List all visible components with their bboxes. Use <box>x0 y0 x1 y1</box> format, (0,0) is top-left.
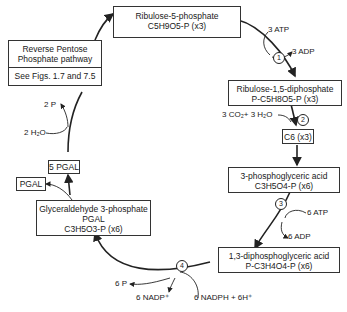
label-2-h2o: 2 H₂O <box>24 128 46 138</box>
step-1-marker: 1 <box>273 52 285 64</box>
label-6-atp: 6 ATP <box>307 208 328 218</box>
node-13-diphosphoglyceric-acid: 1,3-diphosphoglyceric acid P-C3H4O4-P (x… <box>218 247 340 273</box>
node-5-pgal: 5 PGAL <box>48 160 80 174</box>
label-co2-h2o: 3 CO₂+ 3 H₂O <box>222 110 272 120</box>
node-label: C6 (x3) <box>283 132 313 142</box>
node-label: 3-phosphoglyceric acid <box>229 171 339 181</box>
label-3-adp: 3 ADP <box>292 47 315 57</box>
node-label: PGAL <box>17 179 45 189</box>
label-6-adp: 6 ADP <box>288 232 311 242</box>
node-formula: C5H9O5-P (x3) <box>114 21 240 31</box>
label-6-nadp: 6 NADP⁺ <box>136 293 169 303</box>
step-4-marker: 4 <box>176 260 188 272</box>
node-glyceraldehyde-3-phosphate: Glyceraldehyde 3-phosphate PGAL C3H5O3-P… <box>36 200 151 236</box>
node-ribulose-diphosphate: Ribulose-1,5-diphosphate P-C5H8O5-P (x3) <box>228 80 342 106</box>
node-formula: P-C5H8O5-P (x3) <box>229 94 341 104</box>
node-formula: P-C3H4O4-P (x6) <box>219 261 339 271</box>
node-label: 1,3-diphosphoglyceric acid <box>219 251 339 261</box>
node-ribulose-5-phosphate: Ribulose-5-phosphate C5H9O5-P (x3) <box>113 6 241 38</box>
node-formula: C3H5O4-P (x6) <box>229 181 339 191</box>
node-label: 5 PGAL <box>49 162 79 172</box>
node-abbrev: PGAL <box>37 214 150 224</box>
node-c6: C6 (x3) <box>282 129 314 144</box>
step-3-marker: 3 <box>275 198 287 210</box>
node-label: Ribulose-1,5-diphosphate <box>229 84 341 94</box>
node-reverse-pentose-phosphate: Reverse Pentose Phosphate pathway See Fi… <box>8 40 102 86</box>
node-formula: C3H5O3-P (x6) <box>37 224 150 234</box>
node-label: Phosphate pathway <box>9 54 101 64</box>
node-label: Reverse Pentose <box>9 44 101 54</box>
label-3-atp: 3 ATP <box>268 25 289 35</box>
node-label: Glyceraldehyde 3-phosphate <box>37 204 150 214</box>
node-3-phosphoglyceric-acid: 3-phosphoglyceric acid C3H5O4-P (x6) <box>228 167 340 193</box>
step-2-marker: 2 <box>297 114 309 126</box>
label-2-p: 2 P <box>44 100 56 110</box>
node-pgal: PGAL <box>16 177 46 191</box>
label-6-nadph: 6 NADPH + 6H⁺ <box>194 293 252 303</box>
figure-reference: See Figs. 1.7 and 7.5 <box>9 71 101 81</box>
node-label: Ribulose-5-phosphate <box>114 11 240 21</box>
label-6-p: 6 P <box>115 279 127 289</box>
